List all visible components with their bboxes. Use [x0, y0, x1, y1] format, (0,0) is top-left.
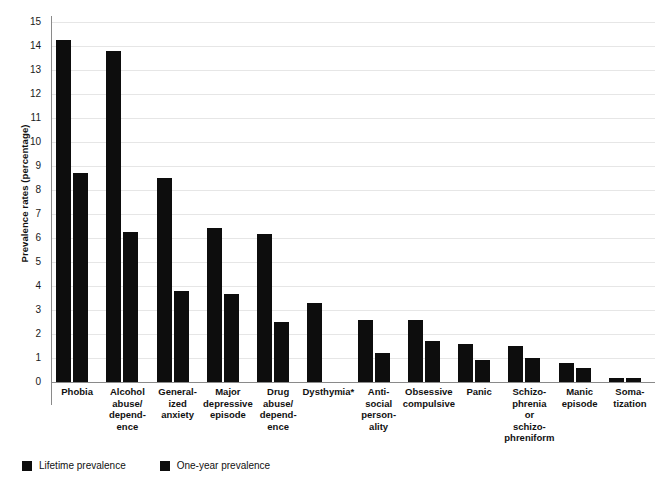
- y-tick-label-3: 3: [15, 305, 41, 315]
- bar-lifetime: [559, 363, 574, 382]
- bar-group: [504, 22, 554, 382]
- y-tick-label-12: 12: [15, 89, 41, 99]
- y-tick-label-2: 2: [15, 329, 41, 339]
- legend-label: Lifetime prevalence: [39, 460, 126, 471]
- y-tick-label-13: 13: [15, 65, 41, 75]
- bar-one-year: [425, 341, 440, 382]
- bar-lifetime: [157, 178, 172, 382]
- bar-lifetime: [358, 320, 373, 382]
- legend-label: One-year prevalence: [177, 460, 270, 471]
- bar-group: [303, 22, 353, 382]
- bar-lifetime: [207, 228, 222, 382]
- bar-lifetime: [257, 234, 272, 382]
- y-tick-label-10: 10: [15, 137, 41, 147]
- bar-group: [203, 22, 253, 382]
- bar-lifetime: [408, 320, 423, 382]
- y-tick-label-15: 15: [15, 17, 41, 27]
- legend-swatch-icon: [160, 461, 170, 471]
- bar-group: [605, 22, 655, 382]
- bar-one-year: [274, 322, 289, 382]
- x-axis-label: Soma- tization: [599, 386, 661, 409]
- bar-one-year: [475, 360, 490, 382]
- gridline-0: [52, 382, 655, 383]
- chart-legend: Lifetime prevalenceOne-year prevalence: [22, 460, 270, 471]
- bar-group: [555, 22, 605, 382]
- legend-item: Lifetime prevalence: [22, 460, 126, 471]
- bar-group: [354, 22, 404, 382]
- y-tick-label-7: 7: [15, 209, 41, 219]
- bar-lifetime: [508, 346, 523, 382]
- y-tick-label-1: 1: [15, 353, 41, 363]
- bar-group: [102, 22, 152, 382]
- bar-one-year: [224, 294, 239, 382]
- legend-swatch-icon: [22, 461, 32, 471]
- bar-group: [153, 22, 203, 382]
- x-axis-category-labels: PhobiaAlcohol abuse/ depend- enceGeneral…: [52, 386, 655, 456]
- bar-one-year: [626, 378, 641, 382]
- bar-group: [52, 22, 102, 382]
- bar-group: [404, 22, 454, 382]
- y-tick-label-11: 11: [15, 113, 41, 123]
- bar-one-year: [525, 358, 540, 382]
- y-tick-label-4: 4: [15, 281, 41, 291]
- y-tick-label-8: 8: [15, 185, 41, 195]
- prevalence-bar-chart: Prevalence rates (percentage) 0123456789…: [0, 0, 664, 486]
- bar-one-year: [73, 173, 88, 382]
- bar-lifetime: [609, 378, 624, 382]
- bar-lifetime: [307, 303, 322, 382]
- bar-lifetime: [106, 51, 121, 382]
- y-tick-label-14: 14: [15, 41, 41, 51]
- bar-one-year: [123, 232, 138, 382]
- plot-area: 0123456789101112131415: [52, 22, 655, 382]
- bar-one-year: [576, 368, 591, 382]
- y-tick-label-0: 0: [15, 377, 41, 387]
- y-tick-label-9: 9: [15, 161, 41, 171]
- y-tick-label-5: 5: [15, 257, 41, 267]
- bar-group: [253, 22, 303, 382]
- bar-one-year: [174, 291, 189, 382]
- bar-one-year: [375, 353, 390, 382]
- bar-lifetime: [56, 40, 71, 382]
- bar-group: [454, 22, 504, 382]
- bar-lifetime: [458, 344, 473, 382]
- y-tick-label-6: 6: [15, 233, 41, 243]
- legend-item: One-year prevalence: [160, 460, 270, 471]
